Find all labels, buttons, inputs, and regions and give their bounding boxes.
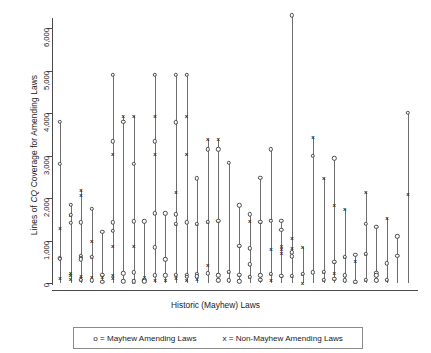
marker-non-mayhew-x: x bbox=[69, 276, 72, 283]
marker-mayhew-circle bbox=[332, 156, 336, 160]
marker-mayhew-circle bbox=[58, 257, 62, 261]
marker-mayhew-circle bbox=[100, 230, 104, 234]
y-tick-label: 6,000 bbox=[42, 28, 51, 47]
marker-mayhew-circle bbox=[216, 147, 220, 151]
stem-line bbox=[197, 178, 198, 283]
marker-non-mayhew-x: x bbox=[269, 246, 272, 253]
marker-mayhew-circle bbox=[248, 212, 252, 216]
chart-root: Lines of CQ Coverage for Amending Laws 0… bbox=[0, 0, 431, 353]
marker-non-mayhew-x: x bbox=[311, 134, 314, 141]
stem-line bbox=[229, 163, 230, 283]
marker-mayhew-circle bbox=[132, 270, 136, 274]
marker-mayhew-circle bbox=[311, 153, 315, 157]
marker-mayhew-circle bbox=[153, 245, 157, 249]
marker-non-mayhew-x: x bbox=[153, 276, 156, 283]
marker-mayhew-circle bbox=[153, 139, 157, 143]
stem-line bbox=[134, 116, 135, 283]
stem-line bbox=[123, 116, 124, 283]
stem-line bbox=[81, 190, 82, 284]
y-tick-label: 1,000 bbox=[42, 241, 51, 260]
marker-non-mayhew-x: x bbox=[153, 112, 156, 119]
x-axis-line bbox=[52, 290, 418, 291]
marker-non-mayhew-x: x bbox=[301, 280, 304, 287]
legend-entry-non-mayhew: x = Non-Mayhew Amending Laws bbox=[222, 334, 342, 343]
stem-line bbox=[155, 75, 156, 283]
stem-line bbox=[187, 75, 188, 283]
marker-non-mayhew-x: x bbox=[406, 190, 409, 197]
x-axis-label: Historic (Mayhew) Laws bbox=[0, 300, 431, 310]
marker-non-mayhew-x: x bbox=[332, 202, 335, 209]
marker-mayhew-circle bbox=[227, 161, 231, 165]
marker-non-mayhew-x: x bbox=[153, 151, 156, 158]
y-axis-label: Lines of CQ Coverage for Amending Laws bbox=[29, 25, 39, 285]
marker-non-mayhew-x: x bbox=[164, 277, 167, 284]
stem-line bbox=[218, 139, 219, 284]
marker-mayhew-circle bbox=[237, 203, 241, 207]
stem-line bbox=[397, 236, 398, 283]
marker-mayhew-circle bbox=[353, 253, 357, 257]
marker-non-mayhew-x: x bbox=[185, 151, 188, 158]
marker-non-mayhew-x: x bbox=[132, 242, 135, 249]
marker-non-mayhew-x: x bbox=[58, 224, 61, 231]
marker-mayhew-circle bbox=[184, 73, 188, 77]
marker-mayhew-circle bbox=[89, 278, 93, 282]
marker-mayhew-circle bbox=[100, 280, 104, 284]
stem-line bbox=[176, 75, 177, 283]
y-axis-label-pre: Lines of bbox=[29, 203, 39, 236]
stem-line bbox=[113, 75, 114, 283]
y-axis-label-post: Coverage for Amending Laws bbox=[29, 75, 39, 190]
marker-mayhew-circle bbox=[58, 119, 62, 123]
marker-non-mayhew-x: x bbox=[58, 275, 61, 282]
marker-non-mayhew-x: x bbox=[90, 237, 93, 244]
marker-non-mayhew-x: x bbox=[248, 218, 251, 225]
stem-line bbox=[313, 137, 314, 283]
marker-non-mayhew-x: x bbox=[132, 113, 135, 120]
stem-line bbox=[387, 218, 388, 283]
marker-mayhew-circle bbox=[385, 261, 389, 265]
marker-mayhew-circle bbox=[269, 147, 273, 151]
marker-mayhew-circle bbox=[195, 176, 199, 180]
y-tick-label: 3,000 bbox=[42, 156, 51, 175]
marker-mayhew-circle bbox=[111, 229, 115, 233]
marker-mayhew-circle bbox=[121, 119, 125, 123]
marker-non-mayhew-x: x bbox=[122, 112, 125, 119]
marker-non-mayhew-x: x bbox=[111, 242, 114, 249]
marker-mayhew-circle bbox=[121, 271, 125, 275]
marker-non-mayhew-x: x bbox=[385, 215, 388, 222]
marker-non-mayhew-x: x bbox=[322, 175, 325, 182]
marker-mayhew-circle bbox=[163, 211, 167, 215]
marker-non-mayhew-x: x bbox=[354, 258, 357, 265]
marker-non-mayhew-x: x bbox=[111, 151, 114, 158]
marker-mayhew-circle bbox=[111, 73, 115, 77]
marker-mayhew-circle bbox=[258, 176, 262, 180]
marker-mayhew-circle bbox=[153, 73, 157, 77]
marker-non-mayhew-x: x bbox=[290, 235, 293, 242]
y-tick-label: 0 bbox=[42, 283, 51, 287]
marker-mayhew-circle bbox=[395, 254, 399, 258]
y-tick-label: 2,000 bbox=[42, 198, 51, 217]
marker-non-mayhew-x: x bbox=[206, 135, 209, 142]
marker-non-mayhew-x: x bbox=[185, 112, 188, 119]
marker-mayhew-circle bbox=[279, 228, 283, 232]
y-tick-label: 4,000 bbox=[42, 113, 51, 132]
marker-non-mayhew-x: x bbox=[343, 205, 346, 212]
marker-non-mayhew-x: x bbox=[111, 275, 114, 282]
marker-mayhew-circle bbox=[68, 203, 72, 207]
marker-mayhew-circle bbox=[374, 225, 378, 229]
marker-mayhew-circle bbox=[205, 147, 209, 151]
marker-mayhew-circle bbox=[364, 221, 368, 225]
marker-mayhew-circle bbox=[406, 110, 410, 114]
marker-mayhew-circle bbox=[111, 139, 115, 143]
marker-mayhew-circle bbox=[111, 220, 115, 224]
y-axis-label-italic: CQ bbox=[29, 190, 39, 203]
marker-mayhew-circle bbox=[132, 219, 136, 223]
stem-line bbox=[303, 247, 304, 283]
marker-non-mayhew-x: x bbox=[280, 250, 283, 257]
marker-mayhew-circle bbox=[89, 207, 93, 211]
marker-mayhew-circle bbox=[174, 73, 178, 77]
marker-mayhew-circle bbox=[142, 219, 146, 223]
stem-line bbox=[366, 192, 367, 283]
marker-mayhew-circle bbox=[290, 13, 294, 17]
marker-non-mayhew-x: x bbox=[301, 244, 304, 251]
y-tick-label: 5,000 bbox=[42, 71, 51, 90]
